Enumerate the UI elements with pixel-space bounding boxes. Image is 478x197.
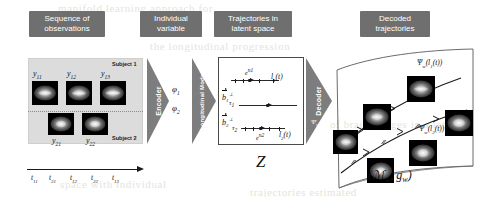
time-axis-arrowhead [137, 166, 144, 172]
latent-curve-label-l1: l1(t) [271, 72, 283, 83]
latent-space-box: en1 l1(t) b1⊥ τ1 b2⊥ τ2 en2 l2(t) [218, 57, 304, 145]
caption-line-2: latent space [218, 24, 288, 34]
caption-decoded-trajectories: Decoded trajectories [360, 11, 430, 37]
time-tick-t22: t22 [91, 173, 98, 184]
brain-thumbnail-y21 [48, 113, 74, 135]
caption-line-1: Individual [144, 14, 198, 24]
decoded-brain-t2-b [409, 140, 437, 166]
latent-direction-s2 [261, 126, 265, 130]
time-tick-t13: t13 [112, 173, 119, 184]
latent-tick-s2-c [267, 128, 271, 129]
latent-tick-s1-b [241, 80, 245, 81]
trajectory-2-arrow-3 [433, 116, 439, 122]
caption-line-1: Trajectories in [218, 14, 288, 24]
observation-label-y11: y11 [33, 69, 42, 80]
trajectory-2-arrow-2 [397, 129, 403, 136]
noise-label-s2: en2 [256, 132, 264, 141]
latent-tick-s1-a [233, 80, 237, 81]
decoded-brain-t1-b [363, 104, 391, 130]
caption-line-1: Decoded [364, 14, 426, 24]
brain-thumbnail-y12 [66, 81, 92, 105]
latent-curve-label-l2: l2(t) [279, 130, 291, 141]
decoder-arrow-symbol: Ψw [311, 118, 319, 127]
subject-1-tag: Subject 1 [112, 61, 136, 67]
brain-thumbnail-y11 [32, 81, 58, 105]
decoded-brain-t2-c [445, 110, 473, 136]
subject-2-tag: Subject 2 [112, 135, 136, 141]
latent-direction-reference [268, 103, 272, 107]
time-axis-line [27, 169, 139, 170]
observation-label-y13: y13 [101, 69, 110, 80]
observation-label-y12: y12 [67, 69, 76, 80]
observation-label-y21: y21 [52, 136, 61, 147]
longitudinal-model-arrow: Longitudinal Model [192, 58, 216, 144]
decoded-trajectory-label-2: Ψw(l2(t)) [419, 124, 444, 135]
latent-tick-s2-a [243, 128, 247, 129]
decoder-arrow: Decoder Ψw [306, 58, 332, 144]
caption-line-2: observations [33, 24, 101, 34]
time-axis: t11 t21 t12 t22 t13 [27, 166, 149, 178]
manifold-metric-label: (ℳw, gw) [368, 168, 412, 184]
longitudinal-model-arrow-label: Longitudinal Model [199, 63, 205, 139]
basis-vector-b2-perp: b2⊥ [222, 116, 233, 128]
caption-sequence-of-observations: Sequence of observations [29, 11, 105, 37]
noise-label-s1: en1 [245, 67, 253, 76]
caption-line-1: Sequence of [33, 14, 101, 24]
decoded-brain-t1-c [407, 76, 435, 102]
caption-individual-variable: Individual variable [140, 11, 202, 37]
caption-line-2: variable [144, 24, 198, 34]
observation-label-y22: y22 [86, 136, 95, 147]
latent-tick-s2-b [251, 128, 255, 129]
individual-variable-phi2: φ2 [172, 103, 180, 115]
latent-tick-s1-c [257, 80, 261, 81]
tau-label-1: τ1 [229, 99, 234, 108]
figure-canvas: manifold learning approach for the longi… [0, 0, 478, 197]
latent-space-symbol: Z [256, 152, 265, 172]
tau-label-2: τ2 [232, 124, 237, 133]
time-tick-t11: t11 [31, 173, 38, 184]
caption-line-2: trajectories [364, 24, 426, 34]
decoded-brain-t1-a [333, 130, 358, 154]
latent-tick-s2-d [277, 128, 281, 129]
decoded-trajectory-label-1: Ψw(l1(t)) [417, 58, 442, 69]
time-tick-t12: t12 [70, 173, 77, 184]
encoder-arrow: Encoder [147, 58, 169, 144]
caption-trajectories-in-latent-space: Trajectories in latent space [214, 11, 292, 37]
individual-variable-phi1: φ1 [172, 84, 180, 96]
time-tick-t21: t21 [49, 173, 56, 184]
brain-thumbnail-y22 [82, 113, 108, 135]
background-bleed-line-2: the longitudinal progression [150, 40, 290, 52]
brain-thumbnail-y13 [100, 81, 126, 105]
latent-direction-s1 [250, 78, 254, 82]
encoder-arrow-label: Encoder [155, 76, 162, 126]
subject-divider [28, 111, 143, 112]
